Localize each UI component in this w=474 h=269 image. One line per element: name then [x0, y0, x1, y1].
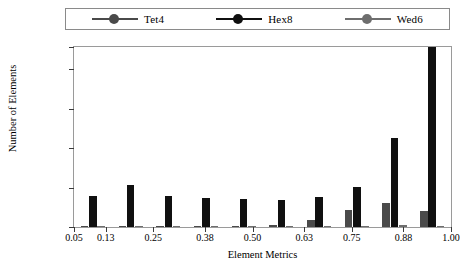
y-axis-tick — [69, 47, 74, 48]
x-axis-tick-label: 0.88 — [380, 232, 426, 243]
bar-hex8 — [315, 197, 323, 227]
y-axis-title: Number of Elements — [7, 44, 18, 174]
bar-group — [376, 47, 414, 227]
bar-tet4 — [119, 226, 127, 227]
bar-wed6 — [286, 226, 294, 227]
x-axis-tick-label: 0.75 — [329, 232, 375, 243]
bar-tet4 — [194, 226, 202, 227]
legend-label-wed6: Wed6 — [397, 14, 423, 25]
bar-wed6 — [361, 226, 369, 227]
bar-group — [74, 47, 112, 227]
legend-label-tet4: Tet4 — [144, 14, 164, 25]
bar-tet4 — [156, 226, 164, 227]
x-axis-tick-label: 0.38 — [182, 232, 228, 243]
bar-group — [149, 47, 187, 227]
bar-hex8 — [202, 198, 210, 227]
bar-tet4 — [307, 220, 315, 227]
legend-label-hex8: Hex8 — [268, 14, 293, 25]
bar-group — [413, 47, 451, 227]
x-axis-tick-label: 0.13 — [83, 232, 129, 243]
legend-entry-hex8: Hex8 — [216, 9, 293, 29]
bar-wed6 — [324, 226, 332, 227]
bar-group — [263, 47, 301, 227]
x-axis-tick-label: 1.00 — [428, 232, 474, 243]
bar-group — [112, 47, 150, 227]
bar-hex8 — [127, 185, 135, 227]
bar-tet4 — [420, 211, 428, 227]
chart-legend: Tet4 Hex8 Wed6 — [65, 8, 450, 30]
bar-wed6 — [211, 226, 219, 227]
y-axis-tick — [69, 69, 74, 70]
bar-group — [300, 47, 338, 227]
bar-hex8 — [353, 187, 361, 227]
bar-tet4 — [269, 225, 277, 227]
bar-tet4 — [81, 226, 89, 227]
legend-symbol-hex8 — [216, 14, 262, 24]
legend-entry-wed6: Wed6 — [345, 9, 423, 29]
chart-figure: Tet4 Hex8 Wed6 Number of Elements 0.0025… — [0, 0, 474, 269]
bar-tet4 — [345, 210, 353, 227]
x-axis-title: Element Metrics — [73, 249, 452, 260]
bar-wed6 — [173, 226, 181, 227]
legend-marker-circle-hex8 — [233, 14, 243, 24]
y-axis-tick — [69, 188, 74, 189]
y-axis-tick — [69, 148, 74, 149]
bar-wed6 — [437, 226, 445, 227]
legend-marker-circle-wed6 — [362, 14, 372, 24]
bar-hex8 — [165, 196, 173, 227]
bar-hex8 — [89, 196, 97, 227]
bar-group — [225, 47, 263, 227]
bar-tet4 — [232, 226, 240, 227]
bar-wed6 — [97, 226, 105, 227]
x-axis-tick-label: 0.25 — [130, 232, 176, 243]
bar-hex8 — [391, 138, 399, 227]
legend-symbol-wed6 — [345, 14, 391, 24]
bar-hex8 — [428, 47, 436, 227]
bar-wed6 — [135, 226, 143, 227]
x-axis-tick-label: 0.50 — [230, 232, 276, 243]
bar-hex8 — [278, 200, 286, 227]
bar-group — [338, 47, 376, 227]
bar-series-container — [74, 47, 451, 227]
bar-tet4 — [382, 203, 390, 227]
legend-entry-tet4: Tet4 — [92, 9, 164, 29]
bar-hex8 — [240, 199, 248, 227]
plot-area: 0.0025000.0050000.0075000.00100000.00114… — [73, 46, 452, 228]
y-axis-tick — [69, 109, 74, 110]
bar-group — [187, 47, 225, 227]
legend-marker-circle-tet4 — [109, 14, 119, 24]
x-axis-tick-label: 0.63 — [281, 232, 327, 243]
legend-symbol-tet4 — [92, 14, 138, 24]
